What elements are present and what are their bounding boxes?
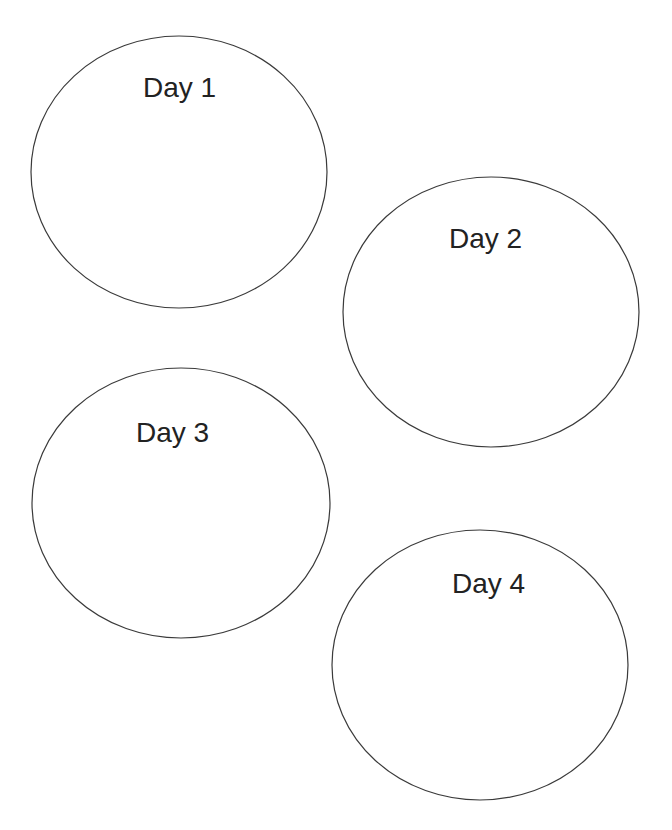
day-1-label: Day 1 [143, 74, 216, 102]
day-4-label: Day 4 [452, 570, 525, 598]
day-2-circle [343, 177, 639, 447]
day-circles-diagram [0, 0, 672, 830]
day-3-label: Day 3 [136, 419, 209, 447]
day-3-circle [32, 368, 330, 638]
day-2-label: Day 2 [449, 225, 522, 253]
